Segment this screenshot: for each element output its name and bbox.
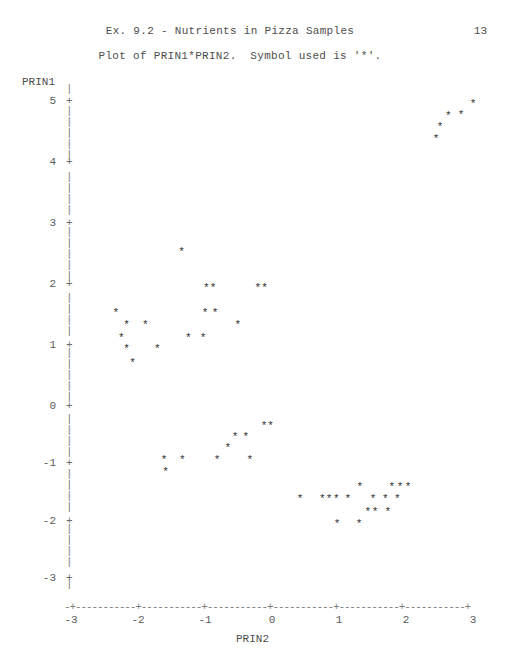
data-point: * [212,308,219,319]
data-point: * [199,333,206,344]
y-axis-tick: + [66,217,73,229]
data-point: * [267,421,274,432]
data-point: * [232,432,239,443]
y-axis-tick: + [66,339,73,351]
data-point: * [123,320,130,331]
data-point: * [179,455,186,466]
y-axis-tick-label: 1 [30,339,56,351]
data-point: * [154,344,161,355]
data-point: * [202,308,209,319]
x-axis-tick-label: 0 [260,614,284,626]
y-axis-spine-segment: | [66,205,73,216]
x-axis-line: -+-----------+-----------+-----------+--… [64,601,470,613]
data-point: * [470,99,477,110]
data-point: * [457,110,464,121]
y-axis-tick: + [66,278,73,290]
data-point: * [261,283,268,294]
data-point: * [370,494,377,505]
y-axis-spine-segment: | [66,557,73,568]
data-point: * [333,519,340,530]
data-point: * [210,283,217,294]
data-point: * [344,494,351,505]
y-axis-spine-segment: | [66,326,73,337]
data-point: * [394,494,401,505]
data-point: * [142,320,149,331]
data-point: * [112,308,119,319]
data-point: * [214,455,221,466]
x-axis-tick-label: -3 [59,614,83,626]
y-axis-tick-label: 5 [30,95,56,107]
x-axis-tick-label: 3 [461,614,485,626]
data-point: * [364,507,371,518]
data-point: * [433,134,440,145]
plot-page: Ex. 9.2 - Nutrients in Pizza Samples 13 … [0,0,505,659]
data-point: * [297,494,304,505]
y-axis-tick-label: 4 [30,156,56,168]
y-axis-tick-label: -3 [30,572,56,584]
y-axis-spine-segment: | [66,502,73,513]
data-point: * [356,519,363,530]
data-point: * [234,320,241,331]
x-axis-tick-label: -1 [193,614,217,626]
data-point: * [246,455,253,466]
x-axis-tick-label: -2 [126,614,150,626]
data-point: * [325,494,332,505]
y-axis-tick: + [66,572,73,584]
data-point: * [129,358,136,369]
data-point: * [356,482,363,493]
y-axis-tick-label: -1 [30,457,56,469]
data-point: * [242,432,249,443]
y-axis-tick: + [66,400,73,412]
x-axis-tick-label: 2 [394,614,418,626]
data-point: * [178,247,185,258]
y-axis-tick-label: 0 [30,400,56,412]
y-axis-tick: + [66,515,73,527]
data-point: * [405,482,412,493]
y-axis-tick-label: -2 [30,515,56,527]
data-point: * [162,467,169,478]
data-point: * [382,494,389,505]
y-axis-tick: + [66,457,73,469]
data-point: * [185,333,192,344]
y-axis-spine-segment: | [66,84,73,95]
x-axis-tick-label: 1 [327,614,351,626]
data-point: * [333,494,340,505]
y-axis-tick: + [66,156,73,168]
data-point: * [388,482,395,493]
y-axis-tick-label: 3 [30,217,56,229]
data-point: * [372,507,379,518]
data-point: * [396,482,403,493]
scatter-plot: |||||||||||||||||||||||||||||||||||||+5+… [0,0,505,659]
y-axis-tick-label: 2 [30,278,56,290]
data-point: * [123,344,130,355]
data-point: * [445,111,452,122]
data-point: * [437,122,444,133]
data-point: * [384,507,391,518]
y-axis-tick: + [66,95,73,107]
data-point: * [161,455,168,466]
data-point: * [224,443,231,454]
